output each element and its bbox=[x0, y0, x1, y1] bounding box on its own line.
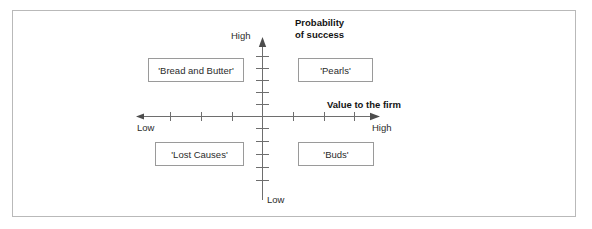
x-axis-arrow-left bbox=[136, 114, 144, 120]
x-axis-arrow-right bbox=[370, 113, 380, 120]
quadrant-label-lost-causes: 'Lost Causes' bbox=[155, 142, 244, 166]
y-axis-high-label: High bbox=[231, 30, 251, 41]
x-axis-low-label: Low bbox=[137, 122, 154, 133]
y-axis-title-line2: of success bbox=[295, 29, 344, 40]
quadrant-label-bread-and-butter: 'Bread and Butter' bbox=[148, 58, 244, 82]
y-axis-title-line1: Probability bbox=[295, 17, 344, 28]
x-axis-title: Value to the firm bbox=[327, 99, 401, 110]
y-axis-low-label: Low bbox=[267, 194, 284, 205]
quadrant-label-pearls: 'Pearls' bbox=[298, 58, 373, 82]
quadrant-label-buds: 'Buds' bbox=[298, 142, 374, 166]
y-axis-arrowhead bbox=[259, 37, 266, 47]
y-axis-title: Probabilityof success bbox=[295, 17, 344, 40]
matrix-diagram: Probabilityof success Value to the firm … bbox=[0, 0, 592, 229]
x-axis-high-label: High bbox=[372, 122, 392, 133]
